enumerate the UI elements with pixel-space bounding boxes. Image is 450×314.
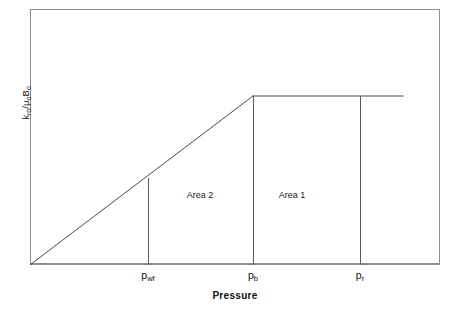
y-axis-label-B: B [20, 90, 31, 96]
y-axis-label-slash: / [20, 106, 31, 109]
annotation-area-1: Area 1 [257, 190, 327, 200]
y-axis-label-mu: μ [20, 100, 31, 106]
x-tick-label-pwf: pwf [118, 269, 178, 283]
x-tick-label-pb: pb [223, 269, 283, 283]
x-tick-pb-sub: b [254, 274, 258, 283]
plot-canvas [0, 0, 450, 314]
x-axis-title: Pressure [30, 290, 440, 301]
y-axis-label-k: k [20, 115, 31, 120]
x-tick-pr-sub: r [362, 274, 365, 283]
annotation-area-2: Area 2 [165, 190, 235, 200]
y-axis-label: kro/μoBo [19, 60, 33, 146]
x-tick-label-pr: pr [330, 269, 390, 283]
y-axis-label-B-sub: o [25, 86, 32, 90]
x-tick-pwf-sub: wf [147, 274, 155, 283]
y-axis-label-ro: ro [25, 109, 32, 115]
series-rising-segment [31, 96, 254, 265]
y-axis-label-mu-sub: o [25, 97, 32, 101]
chart-figure: kro/μoBo pwf pb pr Area 2 Area 1 Pressur… [0, 0, 450, 314]
